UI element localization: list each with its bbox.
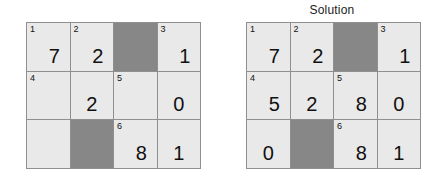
cell-clue-number: 2 <box>294 24 299 34</box>
cell-clue-number: 3 <box>381 24 386 34</box>
cell-digit: 0 <box>247 142 290 164</box>
cell-digit: 1 <box>378 142 421 164</box>
cell-digit: 2 <box>71 45 114 67</box>
cell-digit: 2 <box>291 93 334 115</box>
cell-digit: 0 <box>378 93 421 115</box>
puzzle-page: 1722314250681 Solution 1722314525800681 <box>0 0 443 181</box>
solution-panel: Solution 1722314525800681 <box>221 0 443 181</box>
solution-grid: 1722314525800681 <box>246 22 421 169</box>
puzzle-cell[interactable]: 22 <box>71 23 114 71</box>
puzzle-cell[interactable]: 2 <box>291 72 334 120</box>
cell-digit: 8 <box>334 142 377 164</box>
puzzle-cell[interactable]: 68 <box>334 120 377 168</box>
cell-digit: 1 <box>158 142 201 164</box>
cell-clue-number: 6 <box>117 121 122 131</box>
cell-digit: 2 <box>291 45 334 67</box>
puzzle-cell[interactable]: 1 <box>378 120 421 168</box>
blocked-cell <box>291 120 334 168</box>
puzzle-cell[interactable]: 2 <box>71 72 114 120</box>
puzzle-cell[interactable] <box>27 120 70 168</box>
blocked-cell <box>71 120 114 168</box>
puzzle-cell[interactable]: 5 <box>114 72 157 120</box>
puzzle-cell[interactable]: 0 <box>378 72 421 120</box>
cell-digit: 1 <box>378 45 421 67</box>
cell-digit: 1 <box>158 45 201 67</box>
solution-panel-title: Solution <box>221 3 443 17</box>
puzzle-cell[interactable]: 45 <box>247 72 290 120</box>
puzzle-cell[interactable]: 17 <box>247 23 290 71</box>
puzzle-cell[interactable]: 1 <box>158 120 201 168</box>
cell-clue-number: 4 <box>250 73 255 83</box>
cell-clue-number: 4 <box>30 73 35 83</box>
cell-digit: 7 <box>27 45 70 67</box>
puzzle-cell[interactable]: 0 <box>158 72 201 120</box>
cell-clue-number: 2 <box>74 24 79 34</box>
cell-clue-number: 3 <box>161 24 166 34</box>
puzzle-grid: 1722314250681 <box>26 22 201 169</box>
cell-digit: 8 <box>334 93 377 115</box>
puzzle-panel: 1722314250681 <box>0 0 221 181</box>
puzzle-cell[interactable]: 17 <box>27 23 70 71</box>
cell-clue-number: 5 <box>117 73 122 83</box>
blocked-cell <box>334 23 377 71</box>
blocked-cell <box>114 23 157 71</box>
puzzle-cell[interactable]: 31 <box>158 23 201 71</box>
cell-clue-number: 6 <box>337 121 342 131</box>
cell-digit: 8 <box>114 142 157 164</box>
cell-clue-number: 1 <box>30 24 35 34</box>
puzzle-cell[interactable]: 68 <box>114 120 157 168</box>
puzzle-cell[interactable]: 4 <box>27 72 70 120</box>
cell-clue-number: 1 <box>250 24 255 34</box>
cell-digit: 7 <box>247 45 290 67</box>
cell-digit: 0 <box>158 93 201 115</box>
puzzle-cell[interactable]: 0 <box>247 120 290 168</box>
cell-clue-number: 5 <box>337 73 342 83</box>
cell-digit: 2 <box>71 93 114 115</box>
puzzle-cell[interactable]: 31 <box>378 23 421 71</box>
puzzle-cell[interactable]: 58 <box>334 72 377 120</box>
puzzle-cell[interactable]: 22 <box>291 23 334 71</box>
cell-digit: 5 <box>247 93 290 115</box>
